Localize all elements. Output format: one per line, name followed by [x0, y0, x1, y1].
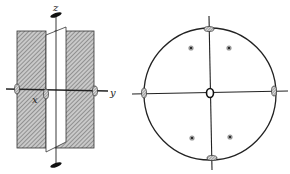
twofold-pole-right — [272, 86, 277, 96]
twofold-pole-left — [142, 88, 147, 98]
stereogram — [132, 16, 288, 170]
twofold-pole-top — [204, 27, 214, 32]
twofold-symbol-right — [93, 86, 98, 96]
center-twofold-symbol — [207, 89, 214, 98]
y-axis-label: y — [109, 87, 116, 98]
twofold-symbol-left — [15, 84, 20, 94]
twofold-pole-bottom — [207, 156, 217, 161]
twofold-symbol-center — [44, 89, 49, 99]
perspective-figure: z x y — [6, 2, 116, 169]
z-axis-label: z — [52, 2, 59, 13]
diagram-canvas: z x y — [0, 0, 290, 174]
x-axis-label: x — [32, 94, 38, 105]
